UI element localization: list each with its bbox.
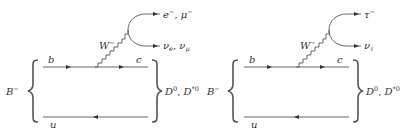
tau-line xyxy=(329,14,361,30)
label-quark-b: b xyxy=(48,55,54,65)
lepton-charge: − xyxy=(370,8,375,16)
label-neutrinos: νe, νμ xyxy=(163,41,190,53)
meson-charge: − xyxy=(13,85,18,93)
meson-symbol: D xyxy=(165,86,173,97)
lepton-charged-line xyxy=(128,14,160,30)
arrow-lepton-icon xyxy=(153,12,158,16)
quark-symbol: c xyxy=(136,54,142,65)
boson-charge: − xyxy=(109,39,114,47)
meson-symbol: D xyxy=(366,86,374,97)
brace-left-icon xyxy=(228,60,238,122)
meson-charge: − xyxy=(214,85,219,93)
arrow-c-icon xyxy=(119,65,124,69)
comma: , xyxy=(174,9,177,20)
label-w-boson: W− xyxy=(99,40,115,51)
label-quark-c: c xyxy=(337,55,343,65)
label-quark-b: b xyxy=(249,55,255,65)
diagram-right xyxy=(228,12,363,122)
boson-symbol: W xyxy=(300,40,310,51)
neutrino-flavor: μ xyxy=(185,45,189,53)
arrow-b-icon xyxy=(66,65,71,69)
meson-symbol: D xyxy=(184,86,192,97)
quark-symbol: b xyxy=(48,54,54,65)
diagram-lines xyxy=(0,0,412,133)
arrow-neutrino-icon xyxy=(153,44,158,48)
neutrino-line xyxy=(128,30,160,46)
arrow-c-icon xyxy=(320,65,325,69)
feynman-diagrams-figure: B− b c u W− e−, μ− νe, νμ D0, D*0 B− b c… xyxy=(0,0,412,133)
arrow-tau-icon xyxy=(354,12,359,16)
label-quark-u: u xyxy=(50,120,56,130)
arrow-b-icon xyxy=(267,65,272,69)
meson-symbol: D xyxy=(385,86,393,97)
diagram-left xyxy=(28,12,162,122)
meson-sup: *0 xyxy=(393,85,400,93)
arrow-tau-neutrino-icon xyxy=(354,44,359,48)
brace-left-icon xyxy=(28,60,38,122)
brace-right-icon xyxy=(353,60,363,122)
brace-right-icon xyxy=(152,60,162,122)
arrow-u-icon xyxy=(294,115,299,119)
label-tau: τ− xyxy=(364,9,375,20)
label-d-mesons: D0, D*0 xyxy=(366,86,400,97)
quark-symbol: b xyxy=(249,54,255,65)
label-w-boson: W− xyxy=(300,40,316,51)
lepton-charge: − xyxy=(187,8,192,16)
quark-symbol: c xyxy=(337,54,343,65)
label-quark-c: c xyxy=(136,55,142,65)
label-quark-u: u xyxy=(251,120,257,130)
quark-symbol: u xyxy=(50,119,56,130)
label-b-meson: B− xyxy=(207,86,220,97)
tau-neutrino-line xyxy=(329,30,361,46)
label-tau-neutrino: ντ xyxy=(364,41,374,53)
arrow-u-icon xyxy=(93,115,98,119)
label-b-meson: B− xyxy=(6,86,19,97)
label-d-mesons: D0, D*0 xyxy=(165,86,199,97)
meson-sup: *0 xyxy=(192,85,199,93)
boson-charge: − xyxy=(310,39,315,47)
comma: , xyxy=(378,86,381,97)
label-charged-leptons: e−, μ− xyxy=(163,9,193,20)
comma: , xyxy=(177,86,180,97)
neutrino-flavor: τ xyxy=(370,45,374,53)
comma: , xyxy=(173,40,176,51)
quark-symbol: u xyxy=(251,119,257,130)
boson-symbol: W xyxy=(99,40,109,51)
